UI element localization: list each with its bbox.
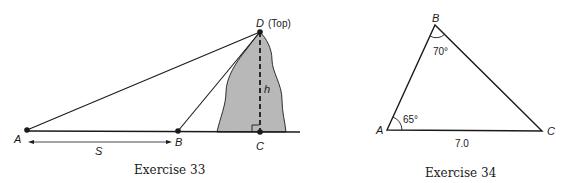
label-B: B — [175, 136, 182, 148]
angle-label-B: 70° — [433, 46, 448, 57]
caption-exercise-34: Exercise 34 — [425, 166, 497, 180]
mountain-shape — [217, 32, 286, 132]
label-S: S — [95, 145, 103, 157]
diagram-canvas: A B C D (Top) h S Exercise 33 B A C 70° … — [0, 0, 565, 183]
point-A — [24, 127, 30, 133]
label-D: D — [256, 17, 264, 29]
label-A: A — [13, 133, 21, 145]
caption-exercise-33: Exercise 33 — [134, 163, 205, 177]
exercise-33-figure: A B C D (Top) h S Exercise 33 — [13, 17, 300, 177]
angle-arc-A — [393, 117, 402, 130]
angle-label-A: 65° — [403, 114, 418, 125]
angle-arc-B — [430, 34, 445, 38]
label-C: C — [547, 125, 555, 137]
point-B — [175, 128, 181, 134]
point-D — [257, 29, 263, 35]
label-A: A — [375, 124, 383, 136]
exercise-34-figure: B A C 70° 65° 7.0 Exercise 34 — [375, 12, 555, 180]
label-C: C — [256, 140, 264, 152]
arrowhead-right — [166, 140, 172, 144]
label-B: B — [432, 12, 439, 24]
side-label-AC: 7.0 — [455, 138, 469, 149]
label-top: (Top) — [268, 18, 291, 29]
arrowhead-left — [28, 140, 34, 144]
label-h: h — [264, 83, 270, 95]
point-C — [257, 129, 263, 135]
